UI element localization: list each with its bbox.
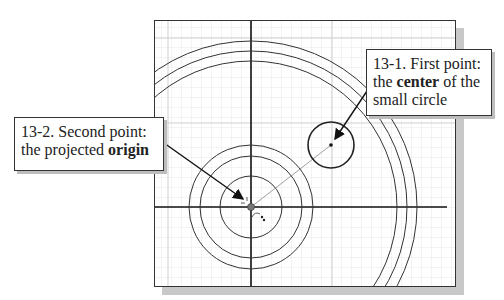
callout-first-line3: small circle bbox=[373, 91, 485, 109]
figure: 13-1. First point: the center of the sma… bbox=[0, 0, 504, 300]
callout-first-line1: 13-1. First point: bbox=[373, 55, 485, 73]
callout-second-point: 13-2. Second point: the projected origin bbox=[14, 117, 164, 171]
small-circle-center-point[interactable] bbox=[329, 143, 333, 147]
text-center-bold: center bbox=[397, 73, 440, 90]
text-origin-bold: origin bbox=[108, 141, 149, 158]
text-the-projected: the projected bbox=[21, 141, 108, 158]
text-the: the bbox=[373, 73, 397, 90]
callout-second-line1: 13-2. Second point: bbox=[21, 123, 157, 141]
origin-point[interactable] bbox=[248, 204, 255, 211]
callout-first-line2: the center of the bbox=[373, 73, 485, 91]
text-of-the: of the bbox=[439, 73, 480, 90]
callout-first-point: 13-1. First point: the center of the sma… bbox=[366, 49, 492, 116]
callout-second-line2: the projected origin bbox=[21, 141, 157, 159]
